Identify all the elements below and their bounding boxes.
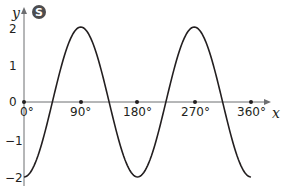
origin-dot	[22, 100, 26, 104]
y-tick-label: −1	[5, 134, 23, 148]
x-tick-label: 0°	[20, 105, 34, 119]
tick-90	[79, 100, 83, 104]
tick-270	[193, 100, 197, 104]
chart: y x 2 1 0 −1 −2 0° 90° 180° 270° 360° S	[0, 0, 286, 191]
y-axis-label: y	[11, 5, 21, 21]
x-tick-label: 270°	[181, 105, 210, 119]
x-tick-label: 360°	[237, 105, 266, 119]
y-tick-label: 2	[9, 22, 17, 36]
badge-letter: S	[35, 6, 43, 19]
y-tick-label: −2	[5, 171, 23, 185]
x-tick-label: 180°	[123, 105, 152, 119]
tick-360	[249, 100, 253, 104]
y-tick-label: 0	[9, 95, 17, 109]
y-axis-arrow-icon	[21, 7, 27, 14]
x-tick-label: 90°	[70, 105, 91, 119]
x-axis-label: x	[272, 105, 280, 121]
tick-180	[135, 100, 139, 104]
y-tick-label: 1	[9, 59, 17, 73]
